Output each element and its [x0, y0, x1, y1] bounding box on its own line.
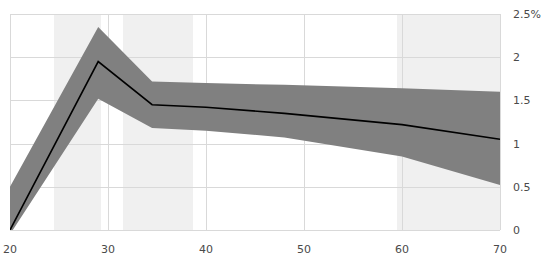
gridline-x-5: [500, 14, 501, 230]
series-layer: [10, 14, 500, 230]
plot-area: [10, 14, 500, 230]
chart-container: 00.511.522.5% 203040506070: [0, 0, 551, 266]
x-tick-label-0: 20: [0, 244, 30, 255]
x-tick-label-4: 60: [382, 244, 422, 255]
x-tick-label-2: 40: [186, 244, 226, 255]
x-axis: 203040506070: [0, 230, 551, 266]
y-tick-label-3: 1.5: [513, 95, 531, 106]
x-tick-label-1: 30: [88, 244, 128, 255]
y-tick-label-2: 1: [513, 139, 520, 150]
x-tick-label-5: 70: [480, 244, 520, 255]
y-tick-label-1: 0.5: [513, 182, 531, 193]
y-tick-label-4: 2: [513, 52, 520, 63]
x-tick-label-3: 50: [284, 244, 324, 255]
y-axis: 00.511.522.5%: [505, 0, 551, 266]
y-tick-label-5: 2.5%: [513, 9, 541, 20]
